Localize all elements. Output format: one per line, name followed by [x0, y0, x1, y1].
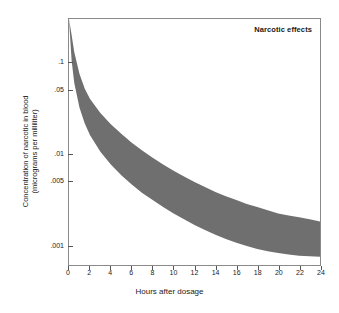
- y-tick-label: .005: [50, 177, 64, 184]
- y-axis-tick-labels: .001.005.01.05.1.512: [40, 0, 64, 313]
- x-tick-label: 6: [129, 269, 133, 276]
- x-tick-mark: [89, 266, 90, 270]
- x-tick-mark: [173, 266, 174, 270]
- x-tick-label: 8: [150, 269, 154, 276]
- x-tick-mark: [195, 266, 196, 270]
- x-tick-label: 2: [87, 269, 91, 276]
- x-tick-mark: [258, 266, 259, 270]
- x-tick-label: 12: [191, 269, 199, 276]
- x-tick-label: 10: [170, 269, 178, 276]
- concentration-band-plot: [69, 19, 320, 265]
- x-tick-mark: [300, 266, 301, 270]
- y-tick-mark: [68, 246, 73, 247]
- y-axis-title-line1: Concentration of narcotic in blood: [21, 96, 30, 208]
- x-tick-mark: [279, 266, 280, 270]
- y-tick-label: .01: [54, 150, 64, 157]
- x-tick-label: 24: [317, 269, 325, 276]
- narcotic-effects-chart: Narcotic effects .001.005.01.05.1.512 02…: [0, 0, 339, 313]
- x-tick-mark: [110, 266, 111, 270]
- x-tick-label: 4: [108, 269, 112, 276]
- y-axis-title: Concentration of narcotic in blood (micr…: [21, 51, 40, 251]
- plot-area: Narcotic effects: [68, 18, 321, 266]
- y-tick-label: .001: [50, 242, 64, 249]
- x-tick-mark: [216, 266, 217, 270]
- y-tick-mark: [68, 181, 73, 182]
- y-tick-label: .5: [58, 0, 64, 1]
- x-tick-label: 22: [296, 269, 304, 276]
- y-tick-mark: [68, 90, 73, 91]
- y-tick-mark: [68, 154, 73, 155]
- x-tick-mark: [131, 266, 132, 270]
- x-tick-label: 20: [275, 269, 283, 276]
- x-tick-mark: [152, 266, 153, 270]
- y-axis-title-line2: (micrograms per milliliter): [30, 51, 39, 251]
- x-tick-mark: [321, 266, 322, 270]
- x-tick-label: 16: [233, 269, 241, 276]
- x-tick-label: 18: [254, 269, 262, 276]
- x-tick-mark: [237, 266, 238, 270]
- y-tick-mark: [68, 62, 73, 63]
- concentration-band: [69, 19, 320, 257]
- x-axis-title: Hours after dosage: [0, 287, 339, 296]
- y-tick-label: .05: [54, 86, 64, 93]
- x-tick-label: 0: [66, 269, 70, 276]
- x-tick-label: 14: [212, 269, 220, 276]
- y-tick-label: .1: [58, 58, 64, 65]
- x-tick-mark: [68, 266, 69, 270]
- chart-title: Narcotic effects: [254, 25, 312, 34]
